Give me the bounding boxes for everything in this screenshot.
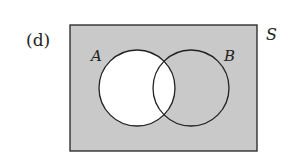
figure-label: (d): [26, 30, 50, 50]
venn-diagram: (d) S A B: [0, 0, 289, 155]
universe-label: S: [266, 25, 277, 44]
set-b-label: B: [223, 47, 235, 65]
set-a-label: A: [89, 47, 102, 65]
